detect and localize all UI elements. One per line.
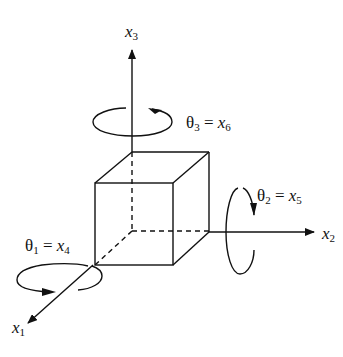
x3-label: x3 (125, 22, 138, 42)
theta1-label: θ1 = x4 (25, 236, 70, 256)
cube (95, 152, 209, 265)
x1-axis (28, 265, 93, 323)
diagram-canvas: x3 x2 x1 θ3 = x6 θ2 = x5 θ1 = x4 (0, 0, 343, 357)
cube-dof-diagram (0, 0, 343, 357)
theta3-label: θ3 = x6 (186, 113, 231, 133)
theta2-label: θ2 = x5 (257, 186, 302, 206)
theta2-rotation-arrow (226, 188, 254, 274)
x2-label: x2 (322, 224, 335, 244)
x1-label: x1 (12, 318, 25, 338)
